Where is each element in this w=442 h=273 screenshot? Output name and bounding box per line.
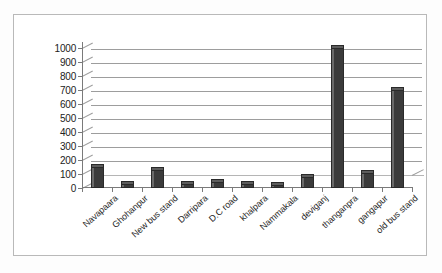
- y-axis-tick-label: 0: [71, 183, 76, 194]
- bar-highlight: [332, 49, 334, 187]
- bar-highlight: [362, 174, 364, 187]
- bar-highlight: [92, 168, 94, 187]
- y-axis-tick-label: 800: [60, 71, 76, 82]
- bar: [211, 182, 224, 188]
- bar-top-face: [91, 164, 104, 167]
- bar-highlight: [122, 185, 124, 187]
- y-axis-tick-label: 1000: [55, 43, 76, 54]
- bar-highlight: [242, 185, 244, 187]
- y-axis-tick-label: 700: [60, 85, 76, 96]
- bar: [121, 184, 134, 188]
- bar: [91, 167, 104, 188]
- x-axis-category-label: D.C road: [207, 193, 240, 224]
- y-axis-tick-label: 500: [60, 113, 76, 124]
- bar-highlight: [392, 91, 394, 187]
- bar-top-face: [211, 179, 224, 182]
- bar-highlight: [212, 183, 214, 187]
- bar: [301, 177, 314, 188]
- x-axis-category-labels: NavapaaraGhohanpurNew bus standDarripara…: [82, 193, 427, 273]
- bar-top-face: [241, 181, 254, 184]
- bar: [241, 184, 254, 188]
- bar: [151, 170, 164, 188]
- bar-series: [82, 42, 422, 188]
- bar-top-face: [151, 167, 164, 170]
- bar: [361, 173, 374, 188]
- y-axis-tick-label: 900: [60, 57, 76, 68]
- bar: [271, 185, 284, 189]
- bar-top-face: [301, 174, 314, 177]
- y-axis-tick-label: 300: [60, 141, 76, 152]
- bar-highlight: [152, 171, 154, 187]
- plot-area: 01002003004005006007008009001000: [82, 42, 422, 194]
- bar: [331, 48, 344, 188]
- bar-top-face: [361, 170, 374, 173]
- bar-top-face: [391, 87, 404, 90]
- bar: [391, 90, 404, 188]
- bar-top-face: [271, 182, 284, 185]
- bar-highlight: [302, 178, 304, 187]
- bar-top-face: [181, 181, 194, 184]
- y-axis-tick-label: 200: [60, 155, 76, 166]
- figure-frame: 01002003004005006007008009001000 Navapaa…: [13, 14, 427, 256]
- y-axis-tick-label: 400: [60, 127, 76, 138]
- bar: [181, 184, 194, 188]
- x-axis-category-label: Darripara: [176, 193, 210, 225]
- bar-highlight: [272, 186, 274, 188]
- bar-top-face: [121, 181, 134, 184]
- y-axis-tick-label: 600: [60, 99, 76, 110]
- bar-top-face: [331, 45, 344, 48]
- bar-highlight: [182, 185, 184, 187]
- y-axis-tick-label: 100: [60, 169, 76, 180]
- chart-screenshot: 01002003004005006007008009001000 Navapaa…: [0, 0, 442, 273]
